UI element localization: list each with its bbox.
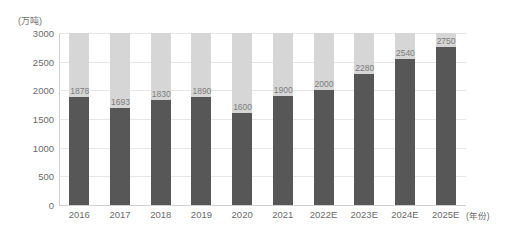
bar-group[interactable] [151,33,171,205]
bar-data-label: 2750 [437,36,456,46]
bar-value-segment[interactable] [436,47,456,205]
y-axis-tick-label: 0 [4,200,54,211]
bar-data-label: 2280 [355,63,374,73]
y-axis-tick-label: 500 [4,171,54,182]
bar-data-label: 1878 [70,86,89,96]
bar-cap-segment [232,33,252,113]
bar-group[interactable] [436,33,456,205]
bar-value-segment[interactable] [110,108,130,205]
bar-group[interactable] [395,33,415,205]
y-axis-ticks: 050010001500200025003000 [0,33,54,205]
bar-data-label: 1830 [152,89,171,99]
bar-data-label: 1693 [111,97,130,107]
bar-data-label: 2000 [315,79,334,89]
bar-group[interactable] [191,33,211,205]
bar-group[interactable] [232,33,252,205]
bar-value-segment[interactable] [354,74,374,205]
bar-value-segment[interactable] [151,100,171,205]
bar-data-label: 1890 [192,86,211,96]
bar-group[interactable] [69,33,89,205]
gridline [59,205,466,206]
y-axis-tick-label: 3000 [4,28,54,39]
y-axis-tick-label: 2500 [4,56,54,67]
bar-value-segment[interactable] [191,97,211,205]
bar-data-label: 1600 [233,102,252,112]
bar-value-segment[interactable] [395,59,415,205]
bar-value-segment[interactable] [273,96,293,205]
bar-value-segment[interactable] [232,113,252,205]
bar-group[interactable] [354,33,374,205]
bar-group[interactable] [273,33,293,205]
chart-figure: (万吨) 050010001500200025003000 1878169318… [0,0,507,239]
bar-value-segment[interactable] [314,90,334,205]
bar-value-segment[interactable] [69,97,89,205]
y-axis-tick-label: 1000 [4,142,54,153]
bar-data-label: 1900 [274,85,293,95]
y-axis-tick-label: 2000 [4,85,54,96]
y-axis-tick-label: 1500 [4,114,54,125]
bar-group[interactable] [110,33,130,205]
bar-group[interactable] [314,33,334,205]
plot-area: 1878169318301890160019002000228025402750 [59,33,466,205]
x-axis-tick-label: 2025E [418,209,474,220]
y-axis-unit-label: (万吨) [18,14,42,27]
bar-data-label: 2540 [396,48,415,58]
